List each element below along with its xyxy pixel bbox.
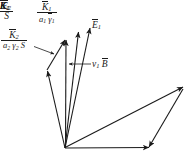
label-k2-over-a2-gamma2-s: K2 a2 γ2 S (1, 29, 27, 50)
e1-overbar: E (92, 19, 98, 30)
k2-numerator-subscript: 2 (16, 33, 19, 40)
e1-letter: E (92, 20, 98, 30)
vector-e2-over-s (48, 71, 66, 148)
b-letter: B (102, 59, 108, 69)
label-k-bar-bottom: K (0, 0, 6, 11)
label-v1-b-bar: v1 B (92, 58, 108, 69)
k2-numerator-letter: K (9, 30, 15, 40)
label-k1-over-a1-gamma1: K1 a1 γ1 (37, 1, 57, 23)
v1-subscript: 1 (96, 62, 99, 69)
k2-den-gamma-subscript: 2 (16, 45, 19, 51)
k1-numerator-subscript: 1 (48, 5, 51, 12)
k1-den-gamma-subscript: 1 (52, 18, 55, 24)
vector-v1-b-bar (65, 32, 79, 148)
vector-k2-over-a2gamma2s (47, 40, 65, 70)
k-bottom-letter: K (0, 1, 6, 11)
vector-k-bar (65, 148, 149, 149)
e1-subscript: 1 (98, 23, 101, 30)
vector-k2-bar-right (149, 89, 183, 147)
e2-denominator-s: S (0, 12, 13, 22)
k2-numerator-overbar: K (9, 29, 15, 40)
b-overbar: B (102, 58, 108, 69)
vector-k1-bar-right (66, 87, 183, 147)
leader-line-k2-over-a2gamma2s (34, 47, 54, 55)
k-bottom-overbar: K (0, 0, 6, 11)
label-e1-bar: E1 (92, 19, 101, 30)
k2-right-subscript: 2 (6, 4, 9, 11)
vector-diagram-figure: K1 a1 γ1 E1 K2 a2 γ2 S v1 B (0, 0, 190, 167)
vector-k1-over-a1gamma1 (66, 40, 67, 148)
vector-e1-bar (65, 28, 90, 148)
k2-den-s: S (21, 40, 25, 50)
